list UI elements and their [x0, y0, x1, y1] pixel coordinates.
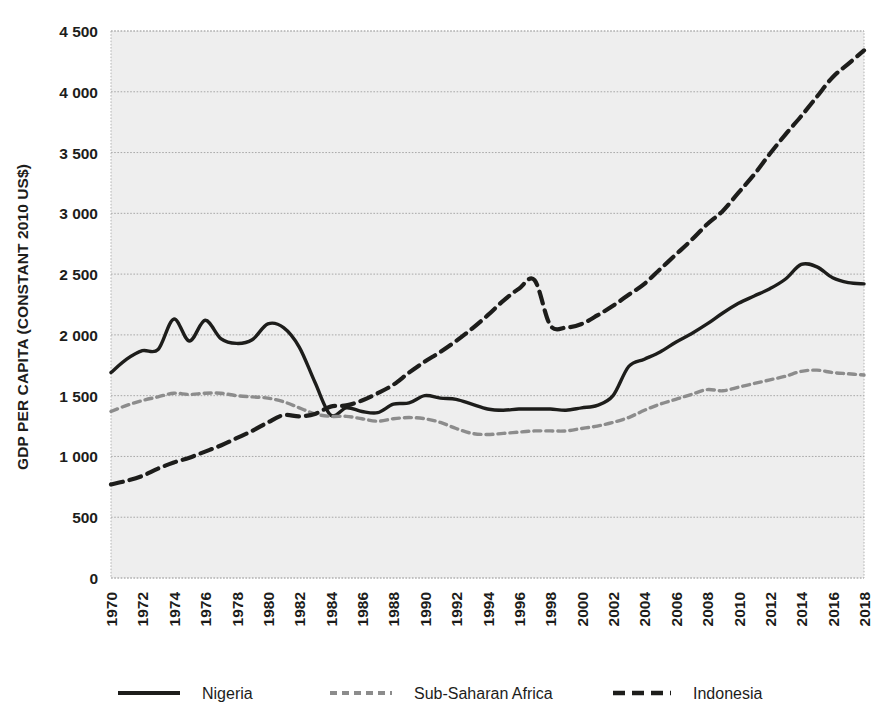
x-tick-label: 1976	[197, 592, 214, 627]
y-tick-label: 2 000	[59, 327, 98, 344]
x-tick-label: 1988	[385, 592, 402, 627]
x-tick-label: 2008	[699, 592, 716, 627]
y-tick-label: 3 500	[59, 145, 98, 162]
x-tick-label: 1996	[511, 592, 528, 627]
x-tick-label: 2012	[762, 592, 779, 626]
chart-legend: NigeriaSub-Saharan AfricaIndonesia	[118, 685, 762, 702]
y-axis-tick-labels: 05001 0001 5002 0002 5003 0003 5004 0004…	[59, 23, 98, 587]
y-tick-label: 1 000	[59, 448, 98, 465]
y-tick-label: 2 500	[59, 266, 98, 283]
x-tick-label: 1998	[542, 592, 559, 627]
x-tick-label: 1978	[229, 592, 246, 627]
x-tick-label: 1986	[354, 592, 371, 627]
legend-item-nigeria[interactable]: Nigeria	[118, 685, 253, 702]
y-tick-label: 500	[72, 509, 98, 526]
x-tick-label: 1974	[166, 592, 183, 627]
x-tick-label: 2010	[731, 592, 748, 626]
x-tick-label: 1980	[260, 592, 277, 626]
gdp-per-capita-line-chart: 05001 0001 5002 0002 5003 0003 5004 0004…	[0, 0, 886, 728]
x-tick-label: 1990	[417, 592, 434, 626]
x-axis-tick-labels: 1970197219741976197819801982198419861988…	[103, 592, 873, 627]
x-tick-label: 2002	[605, 592, 622, 626]
legend-label: Nigeria	[202, 685, 253, 702]
y-axis-title: GDP PER CAPITA (CONSTANT 2010 US$)	[14, 164, 31, 470]
y-tick-label: 4 500	[59, 23, 98, 40]
x-tick-label: 2004	[636, 592, 653, 627]
x-tick-label: 1992	[448, 592, 465, 626]
x-tick-label: 2014	[793, 592, 810, 627]
plot-background	[111, 31, 864, 578]
x-tick-label: 2018	[856, 592, 873, 627]
x-tick-label: 2006	[668, 592, 685, 627]
x-tick-label: 1972	[134, 592, 151, 626]
x-tick-label: 2000	[574, 592, 591, 626]
x-tick-label: 1970	[103, 592, 120, 626]
legend-item-sub-saharan-africa[interactable]: Sub-Saharan Africa	[330, 685, 553, 702]
legend-label: Sub-Saharan Africa	[414, 685, 553, 702]
y-tick-label: 1 500	[59, 388, 98, 405]
x-tick-label: 1982	[291, 592, 308, 626]
y-tick-label: 0	[89, 570, 98, 587]
plot-area	[111, 31, 864, 578]
x-tick-label: 1994	[480, 592, 497, 627]
y-tick-label: 4 000	[59, 84, 98, 101]
legend-item-indonesia[interactable]: Indonesia	[613, 685, 762, 702]
x-tick-label: 1984	[323, 592, 340, 627]
x-tick-label: 2016	[825, 592, 842, 627]
y-tick-label: 3 000	[59, 205, 98, 222]
legend-label: Indonesia	[693, 685, 762, 702]
